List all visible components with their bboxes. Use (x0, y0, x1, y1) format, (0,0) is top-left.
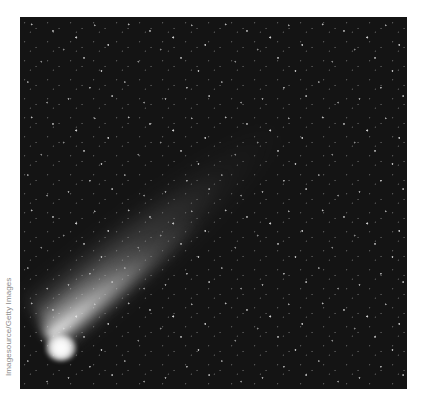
comet-photo (20, 17, 407, 389)
photo-credit: Imagesource/Getty Images (4, 278, 13, 376)
comet-head (46, 335, 76, 361)
